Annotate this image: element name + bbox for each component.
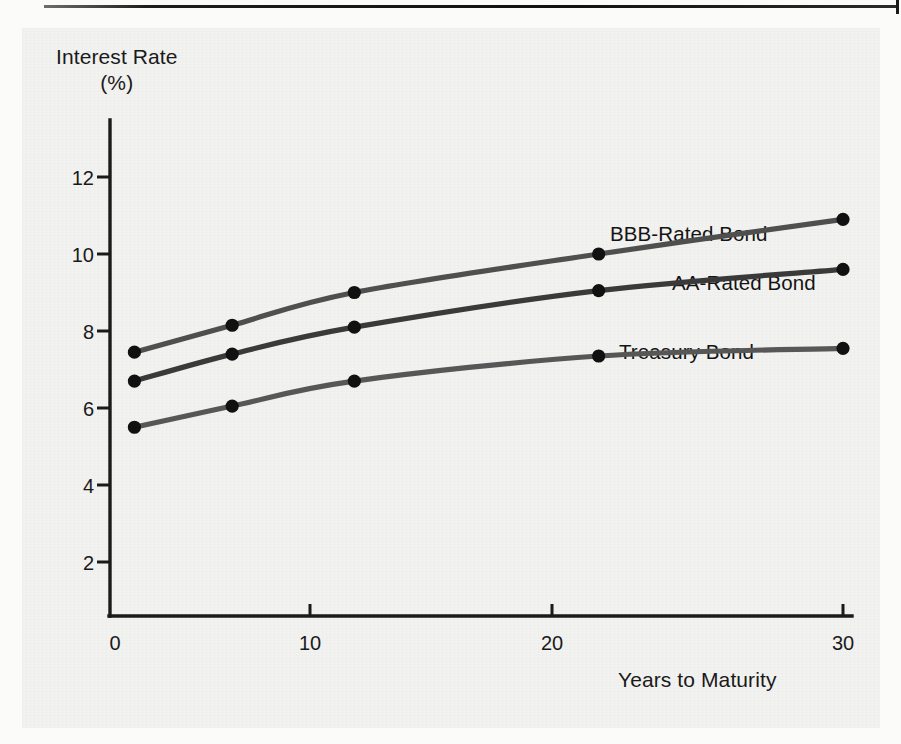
figure-page: Interest Rate (%) Years to Maturity 12 1… — [0, 0, 901, 744]
data-point — [836, 213, 849, 226]
series-bbb-rated-bond — [128, 213, 850, 359]
chart-figure: Interest Rate (%) Years to Maturity 12 1… — [22, 28, 880, 728]
data-point — [226, 348, 239, 361]
series-line — [134, 219, 843, 352]
data-point — [836, 263, 849, 276]
y-axis-ticks — [97, 177, 110, 562]
data-point — [592, 349, 605, 362]
data-point — [348, 321, 361, 334]
data-point — [128, 374, 141, 387]
data-point — [348, 286, 361, 299]
series-layer — [128, 213, 850, 434]
data-point — [592, 247, 605, 260]
data-point — [226, 399, 239, 412]
data-point — [348, 374, 361, 387]
data-point — [226, 319, 239, 332]
series-line — [134, 348, 843, 427]
data-point — [836, 342, 849, 355]
scan-top-rule-cap — [896, 0, 899, 14]
scan-top-rule — [44, 5, 899, 8]
data-point — [128, 421, 141, 434]
data-point — [592, 284, 605, 297]
plot-canvas — [22, 28, 880, 728]
data-point — [128, 346, 141, 359]
